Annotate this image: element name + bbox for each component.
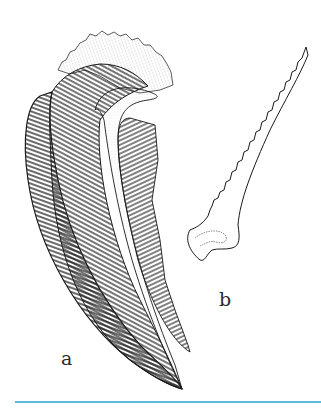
illustration <box>0 0 321 415</box>
serrated-element <box>188 47 308 260</box>
figure-label-a: a <box>61 349 72 368</box>
divider-rule <box>15 401 321 403</box>
figure-label-b: b <box>219 290 231 309</box>
figure-b-drawing <box>188 47 308 260</box>
figure-a-drawing <box>25 31 190 389</box>
